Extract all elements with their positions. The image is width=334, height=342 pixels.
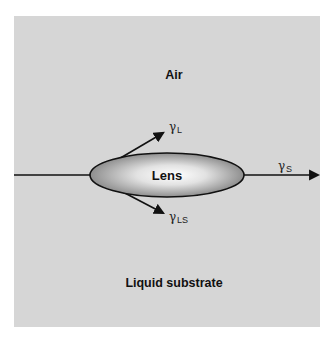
liquid-substrate-label: Liquid substrate — [125, 276, 222, 290]
svg-text:LS: LS — [177, 215, 188, 225]
lens-tension-diagram: Air Liquid substrate Lens γ L γ LS γ S — [0, 0, 334, 342]
lens-label: Lens — [152, 168, 182, 183]
svg-text:γ: γ — [169, 210, 176, 224]
svg-text:L: L — [177, 125, 182, 135]
svg-text:S: S — [286, 164, 292, 174]
svg-text:γ: γ — [278, 159, 285, 173]
svg-text:γ: γ — [169, 120, 176, 134]
air-label: Air — [165, 68, 183, 82]
